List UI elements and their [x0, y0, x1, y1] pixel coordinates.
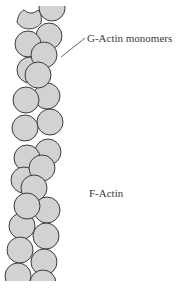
g-actin-monomer: [14, 193, 40, 219]
g-actin-monomer: [13, 87, 39, 113]
g-actin-monomer: [33, 223, 59, 249]
g-actin-monomer: [5, 263, 31, 289]
g-actin-monomer: [12, 115, 38, 141]
g-actin-monomer: [37, 109, 63, 135]
actin-filament-diagram: G-Actin monomers F-Actin: [0, 0, 178, 295]
g-actin-monomer: [25, 62, 51, 88]
f-actin-label: F-Actin: [89, 188, 123, 199]
g-actin-monomer: [7, 237, 33, 263]
g-actin-monomer-cut-top: [17, 10, 41, 29]
monomer-leader-line: [61, 38, 85, 57]
g-actin-monomer: [30, 270, 56, 295]
g-actin-monomer: [39, 0, 65, 21]
g-actin-monomers-label: G-Actin monomers: [87, 33, 172, 44]
filament-illustration: [0, 0, 178, 295]
f-actin-filament: [5, 0, 65, 295]
